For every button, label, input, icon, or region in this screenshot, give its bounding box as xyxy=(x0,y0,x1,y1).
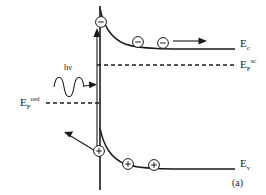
hole-carrier xyxy=(123,159,134,170)
electron-carrier xyxy=(96,17,107,28)
electron-transport-arrow-head xyxy=(199,38,208,45)
electron-carrier xyxy=(158,38,169,49)
valence-band-label: Ev xyxy=(240,157,251,172)
hole-carrier xyxy=(149,160,160,171)
conduction-band-label: Ec xyxy=(240,37,250,52)
band-diagram-canvas: Ec EFsc Ev EFred hν (a) xyxy=(0,0,266,195)
valence-band-curve xyxy=(100,128,235,169)
electron-carrier xyxy=(133,37,144,48)
fermi-redox-label: EFred xyxy=(20,95,40,111)
photon-wave xyxy=(54,77,84,97)
photon-energy-label: hν xyxy=(64,62,72,72)
fermi-semiconductor-label: EFsc xyxy=(240,57,256,73)
hole-carrier xyxy=(94,146,105,157)
hole-transfer-arrow-shaft xyxy=(69,135,97,152)
band-diagram-figure: Ec EFsc Ev EFred hν (a) xyxy=(0,0,266,195)
figure-caption: (a) xyxy=(232,177,243,189)
photon-arrow-head xyxy=(89,81,97,88)
